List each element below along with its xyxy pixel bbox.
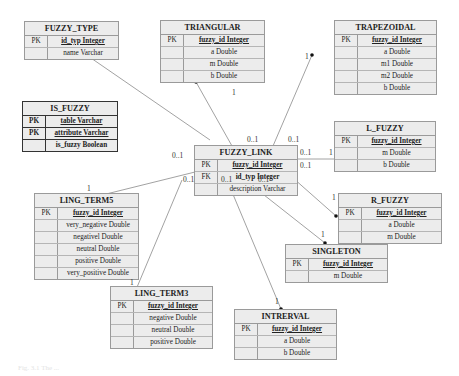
cardinality-label: 0..1 xyxy=(221,175,232,184)
entity-l-fuzzy[interactable]: L_FUZZY PKfuzzy_id Integer m Double b Do… xyxy=(334,121,436,172)
key-label xyxy=(335,83,358,94)
field-label: fuzzy_id Integer xyxy=(258,324,336,335)
field-label: a Double xyxy=(184,47,264,58)
key-label: PK xyxy=(286,259,309,270)
entity-fuzzy-link[interactable]: FUZZY_LINK PKfuzzy_id Integer FKid_typ I… xyxy=(194,145,298,196)
field-label: b Double xyxy=(358,160,435,171)
entity-title: FUZZY_LINK xyxy=(195,146,297,160)
table-row: neutral Double xyxy=(111,325,212,337)
table-row: PKfuzzy_id Integer xyxy=(339,208,441,220)
entity-title: TRAPEZOIDAL xyxy=(335,21,436,35)
table-row: b Double xyxy=(335,160,435,171)
entity-ling-term5[interactable]: LING_TERM5 PKfuzzy_id Integer very_negat… xyxy=(34,193,139,280)
field-label: fuzzy_id Integer xyxy=(362,208,441,219)
entity-title: LING_TERM3 xyxy=(111,287,212,301)
field-label: b Double xyxy=(184,71,264,82)
field-label: fuzzy_id Integer xyxy=(58,208,138,219)
link-ling-term3 xyxy=(135,180,182,292)
table-row: m Double xyxy=(286,271,387,282)
endpoint-dot-icon xyxy=(310,53,314,57)
field-label: fuzzy_id Integer xyxy=(218,160,297,171)
field-label: id_typ Integer xyxy=(48,36,118,47)
key-label xyxy=(111,313,134,324)
table-row: m Double xyxy=(339,232,441,243)
link-triangular xyxy=(196,82,232,146)
table-row: FKid_typ Integer xyxy=(195,172,297,184)
field-label: a Double xyxy=(358,47,436,58)
key-label: PK xyxy=(111,301,134,312)
key-label xyxy=(195,184,218,195)
entity-r-fuzzy[interactable]: R_FUZZY PKfuzzy_id Integer a Double m Do… xyxy=(338,193,442,244)
table-row: PKfuzzy_id Integer xyxy=(235,324,336,336)
key-label: FK xyxy=(195,172,218,183)
field-label: very_positive Double xyxy=(58,268,138,279)
key-label xyxy=(335,59,358,70)
table-row: m1 Double xyxy=(335,59,436,71)
entity-intrerval[interactable]: INTRERVAL PKfuzzy_id Integer a Double b … xyxy=(234,309,337,360)
key-label xyxy=(35,220,58,231)
table-row: negative Double xyxy=(111,313,212,325)
table-row: a Double xyxy=(161,47,264,59)
table-row: m2 Double xyxy=(335,71,436,83)
table-row: PKfuzzy_id Integer xyxy=(335,136,435,148)
cardinality-label: 1 xyxy=(321,230,325,239)
link-r-fuzzy xyxy=(293,178,336,216)
field-label: description Varchar xyxy=(218,184,297,195)
field-label: negative Double xyxy=(134,313,212,324)
entity-title: L_FUZZY xyxy=(335,122,435,136)
key-label: PK xyxy=(195,160,218,171)
table-row: PKfuzzy_id Integer xyxy=(335,35,436,47)
entity-triangular[interactable]: TRIANGULAR PKfuzzy_id Integer a Double m… xyxy=(160,20,265,83)
entity-fuzzy-type[interactable]: FUZZY_TYPE PKid_typ Integer name Varchar xyxy=(24,21,119,60)
entity-ling-term3[interactable]: LING_TERM3 PKfuzzy_id Integer negative D… xyxy=(110,286,213,349)
key-label: PK xyxy=(23,128,46,139)
key-label xyxy=(25,48,48,59)
table-row: PKfuzzy_id Integer xyxy=(161,35,264,47)
field-label: negativel Double xyxy=(58,232,138,243)
entity-trapezoidal[interactable]: TRAPEZOIDAL PKfuzzy_id Integer a Double … xyxy=(334,20,437,95)
field-label: name Varchar xyxy=(48,48,118,59)
key-label: PK xyxy=(161,35,184,46)
table-row: PKtable Varchar xyxy=(23,116,117,128)
table-row: PKfuzzy_id Integer xyxy=(286,259,387,271)
field-label: m1 Double xyxy=(358,59,436,70)
key-label xyxy=(335,71,358,82)
key-label xyxy=(339,232,362,243)
field-label: a Double xyxy=(362,220,441,231)
key-label: PK xyxy=(335,35,358,46)
field-label: positive Double xyxy=(58,256,138,267)
field-label: m Double xyxy=(184,59,264,70)
table-row: negativel Double xyxy=(35,232,138,244)
cardinality-label: 1 xyxy=(305,52,309,61)
field-label: fuzzy_id Integer xyxy=(358,136,435,147)
key-label xyxy=(339,220,362,231)
field-label: fuzzy_id Integer xyxy=(358,35,436,46)
entity-title: INTRERVAL xyxy=(235,310,336,324)
entity-singleton[interactable]: SINGLETON PKfuzzy_id Integer m Double xyxy=(285,244,388,283)
table-row: PKfuzzy_id Integer xyxy=(35,208,138,220)
key-label: PK xyxy=(35,208,58,219)
key-label: PK xyxy=(335,136,358,147)
table-row: description Varchar xyxy=(195,184,297,195)
key-label: PK xyxy=(25,36,48,47)
table-row: very_positive Double xyxy=(35,268,138,279)
key-label: PK xyxy=(339,208,362,219)
key-label xyxy=(35,232,58,243)
table-row: b Double xyxy=(235,348,336,359)
link-trapezoidal xyxy=(273,55,312,146)
field-label: neutral Double xyxy=(134,325,212,336)
entity-title: TRIANGULAR xyxy=(161,21,264,35)
field-label: b Double xyxy=(358,83,436,94)
field-label: m2 Double xyxy=(358,71,436,82)
key-label xyxy=(111,337,134,348)
table-row: very_negative Double xyxy=(35,220,138,232)
field-label: m Double xyxy=(362,232,441,243)
key-label xyxy=(35,268,58,279)
entity-is-fuzzy[interactable]: IS_FUZZY PKtable Varchar PKattribute Var… xyxy=(22,101,118,152)
cardinality-label: 0..1 xyxy=(300,148,311,157)
figure-caption: Fig. 3.1 The ... xyxy=(18,364,59,372)
key-label xyxy=(35,256,58,267)
field-label: is_fuzzy Boolean xyxy=(46,140,117,151)
field-label: b Double xyxy=(258,348,336,359)
key-label xyxy=(335,148,358,159)
